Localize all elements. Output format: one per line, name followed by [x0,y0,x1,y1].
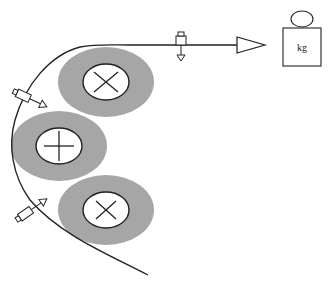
weight-icon: kg [283,11,321,66]
upper-left-sensor-icon [12,87,49,110]
top-sensor-icon [176,32,186,61]
roller-top [58,47,154,117]
weight-label: kg [297,42,307,53]
roller-diagram: kg [0,0,333,292]
direction-arrow-icon [237,37,265,53]
lower-left-sensor-icon [14,196,49,224]
roller-middle [11,111,107,181]
